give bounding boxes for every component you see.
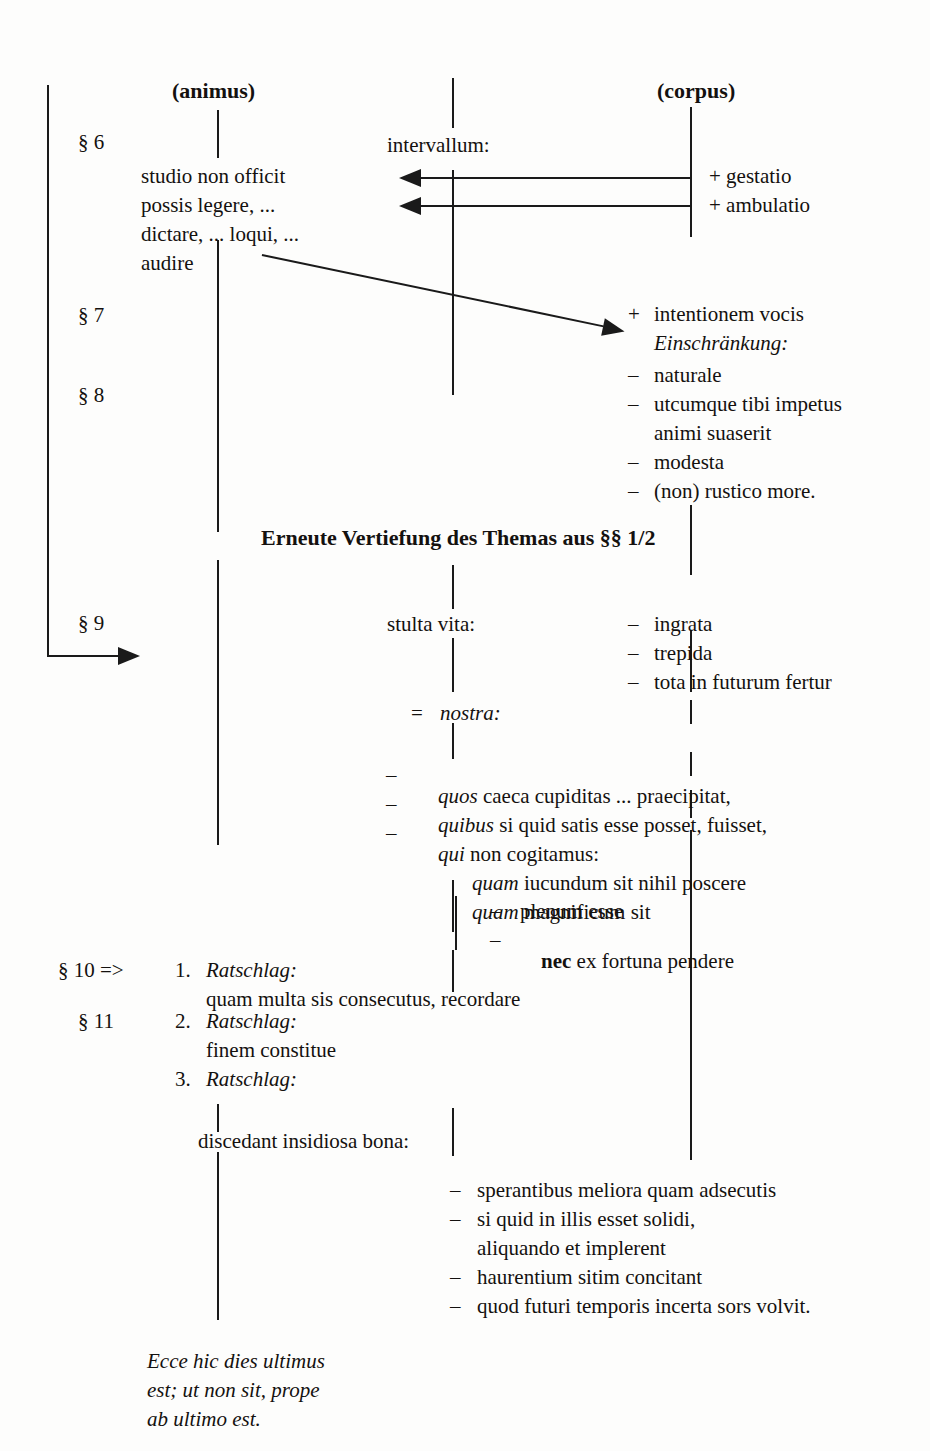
vita-attr-dash-3: – <box>628 672 639 693</box>
column-header-animus: (animus) <box>172 80 255 102</box>
ratschlag-label-3: Ratschlag: <box>206 1069 297 1090</box>
middle-line-seg5 <box>452 723 454 759</box>
animus-line-seg1 <box>217 110 219 158</box>
restriction-text-1: naturale <box>654 365 722 386</box>
quam-subitem-bracket-line <box>455 896 457 950</box>
restriction-dash-1: – <box>628 365 639 386</box>
section-marker-7: § 7 <box>78 305 104 326</box>
middle-line-seg3 <box>452 565 454 609</box>
left-spine-line <box>47 85 49 656</box>
closing-quote-line-1: Ecce hic dies ultimus <box>147 1351 325 1372</box>
restriction-text-3: modesta <box>654 452 724 473</box>
closing-quote-line-2: est; ut non sit, prope <box>147 1380 319 1401</box>
discedant-label: discedant insidiosa bona: <box>198 1131 409 1152</box>
bona-item-text-4: quod futuri temporis incerta sors volvit… <box>477 1296 811 1317</box>
bona-item-text-2: si quid in illis esset solidi, <box>477 1209 695 1230</box>
document-page: (animus) (corpus) § 6 § 7 § 8 § 9 § 10 =… <box>0 0 930 1451</box>
left-spine-elbow <box>47 655 125 657</box>
animus-line-4: audire <box>141 253 193 274</box>
vita-attr-text-2: trepida <box>654 643 712 664</box>
restriction-dash-4: – <box>628 481 639 502</box>
left-spine-arrowhead-icon <box>118 647 140 665</box>
animus-line-3: dictare, ... loqui, ... <box>141 224 299 245</box>
section-marker-8: § 8 <box>78 385 104 406</box>
ratschlag-num-1: 1. <box>175 960 191 981</box>
middle-line-seg7 <box>452 950 454 992</box>
nostra-item-dash-2: – <box>386 794 397 815</box>
animus-line-seg5 <box>217 1152 219 1320</box>
middle-line-seg4 <box>452 638 454 692</box>
restriction-text-2-continuation: animi suaserit <box>654 423 771 444</box>
animus-line-2: possis legere, ... <box>141 195 275 216</box>
stulta-vita-label: stulta vita: <box>387 614 475 635</box>
closing-quote-line-3: ab ultimo est. <box>147 1409 261 1430</box>
ratschlag-body-1: quam multa sis consecutus, recordare <box>206 989 520 1010</box>
middle-line-seg2 <box>452 170 454 395</box>
einschraenkung-label: Einschränkung: <box>654 333 788 354</box>
corpus-line-seg4 <box>690 700 692 724</box>
animus-line-seg4 <box>217 1104 219 1132</box>
audire-to-intentionem-arrowhead-icon <box>601 318 626 340</box>
bona-item-dash-2: – <box>450 1209 461 1230</box>
corpus-line-seg2 <box>690 505 692 575</box>
nostra-item-dash-3: – <box>386 823 397 844</box>
restriction-dash-3: – <box>628 452 639 473</box>
quam-subitem-dash-2: – <box>490 930 501 951</box>
vita-attr-dash-1: – <box>628 614 639 635</box>
bona-item-text-3: haurentium sitim concitant <box>477 1267 702 1288</box>
audire-to-intentionem-arrow-shaft <box>262 254 604 327</box>
restriction-text-2: utcumque tibi impetus <box>654 394 842 415</box>
animus-line-1: studio non officit <box>141 166 285 187</box>
animus-line-seg3 <box>217 560 219 845</box>
ambulatio-arrowhead-icon <box>399 197 421 215</box>
vita-attr-dash-2: – <box>628 643 639 664</box>
section-marker-9: § 9 <box>78 613 104 634</box>
bona-item-dash-1: – <box>450 1180 461 1201</box>
quam-subitem-dash-1: – <box>490 901 501 922</box>
section-marker-6: § 6 <box>78 132 104 153</box>
middle-line-seg8 <box>452 1108 454 1156</box>
restriction-text-4: (non) rustico more. <box>654 481 816 502</box>
corpus-line-seg1 <box>690 107 692 237</box>
quam-subitem-bold-2: nec <box>541 949 571 973</box>
ratschlag-num-3: 3. <box>175 1069 191 1090</box>
section-heading: Erneute Vertiefung des Themas aus §§ 1/2 <box>261 527 655 549</box>
bona-item-text-1: sperantibus meliora quam adsecutis <box>477 1180 776 1201</box>
vita-attr-text-1: ingrata <box>654 614 712 635</box>
gestatio-arrow-shaft <box>420 177 690 179</box>
ratschlag-label-2: Ratschlag: <box>206 1011 297 1032</box>
quam-subitem-text-2: ex fortuna pendere <box>571 949 734 973</box>
corpus-ambulatio: + ambulatio <box>709 195 810 216</box>
corpus-gestatio: + gestatio <box>709 166 791 187</box>
intervallum-label: intervallum: <box>387 135 490 156</box>
ratschlag-label-1: Ratschlag: <box>206 960 297 981</box>
nostra-label: nostra: <box>440 703 501 724</box>
ratschlag-body-2: finem constitue <box>206 1040 336 1061</box>
bona-item-dash-3: – <box>450 1267 461 1288</box>
ratschlag-num-2: 2. <box>175 1011 191 1032</box>
animus-line-seg2 <box>217 240 219 532</box>
quam-subitem-text-1: plenum esse <box>520 901 623 922</box>
vita-attr-text-3: tota in futurum fertur <box>654 672 832 693</box>
bona-item-text-2-continuation: aliquando et implerent <box>477 1238 666 1259</box>
gestatio-arrowhead-icon <box>399 169 421 187</box>
intentionem-plus-sign: + <box>628 304 640 325</box>
nostra-item-dash-1: – <box>386 765 397 786</box>
bona-item-dash-4: – <box>450 1296 461 1317</box>
restriction-dash-2: – <box>628 394 639 415</box>
intentionem-vocis-label: intentionem vocis <box>654 304 804 325</box>
ambulatio-arrow-shaft <box>420 205 690 207</box>
nostra-equals-sign: = <box>411 703 423 724</box>
section-marker-11: § 11 <box>78 1011 114 1032</box>
column-header-corpus: (corpus) <box>657 80 735 102</box>
middle-line-seg1 <box>452 78 454 128</box>
section-marker-10: § 10 => <box>58 960 124 981</box>
